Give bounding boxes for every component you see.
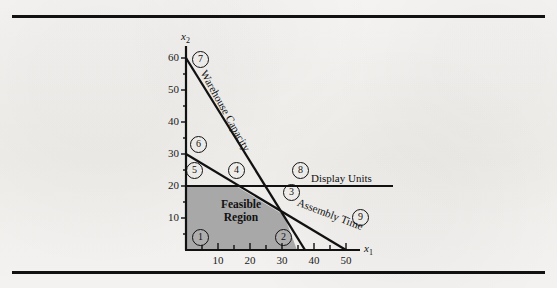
point-marker-2[interactable]: 2 bbox=[275, 229, 292, 246]
x-tick-label-20: 20 bbox=[239, 254, 261, 266]
y-tick-label-60: 60 bbox=[157, 51, 179, 63]
y-tick-label-50: 50 bbox=[157, 83, 179, 95]
x-tick-label-10: 10 bbox=[207, 254, 229, 266]
feasible-region-label-line2: Region bbox=[206, 211, 276, 224]
y-tick-label-30: 30 bbox=[157, 147, 179, 159]
point-marker-9[interactable]: 9 bbox=[352, 209, 369, 226]
figure-page: 60 50 40 30 20 10 10 20 30 40 50 x2 x1 W… bbox=[0, 0, 557, 288]
y-axis-label-sub: 2 bbox=[186, 36, 190, 45]
y-axis-label: x2 bbox=[181, 30, 190, 45]
feasible-region-label: Feasible Region bbox=[206, 198, 276, 224]
y-tick-label-40: 40 bbox=[157, 115, 179, 127]
point-marker-5[interactable]: 5 bbox=[186, 162, 203, 179]
point-marker-7[interactable]: 7 bbox=[192, 51, 209, 68]
y-tick-label-20: 20 bbox=[157, 179, 179, 191]
point-marker-4[interactable]: 4 bbox=[228, 162, 245, 179]
point-marker-3[interactable]: 3 bbox=[283, 184, 300, 201]
x-axis-label: x1 bbox=[364, 242, 373, 257]
x-tick-label-50: 50 bbox=[335, 254, 357, 266]
x-axis-label-sub: 1 bbox=[369, 248, 373, 257]
display-units-label: Display Units bbox=[311, 172, 372, 184]
point-marker-8[interactable]: 8 bbox=[292, 162, 309, 179]
feasible-region-label-line1: Feasible bbox=[206, 198, 276, 211]
point-marker-1[interactable]: 1 bbox=[192, 229, 209, 246]
x-tick-label-40: 40 bbox=[303, 254, 325, 266]
point-marker-6[interactable]: 6 bbox=[190, 136, 207, 153]
linear-programming-plot: 60 50 40 30 20 10 10 20 30 40 50 x2 x1 W… bbox=[0, 0, 557, 288]
x-tick-label-30: 30 bbox=[271, 254, 293, 266]
y-tick-label-10: 10 bbox=[157, 211, 179, 223]
